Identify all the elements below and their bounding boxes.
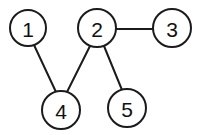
nodes-layer: 12345: [10, 9, 191, 129]
graph-node-1[interactable]: 1: [10, 10, 46, 46]
graph-node-label-5: 5: [121, 98, 133, 121]
graph-diagram: 12345: [0, 0, 200, 135]
graph-node-label-1: 1: [22, 18, 34, 41]
graph-node-3[interactable]: 3: [153, 9, 191, 47]
graph-node-label-4: 4: [55, 100, 67, 123]
graph-node-label-3: 3: [166, 18, 178, 41]
graph-node-label-2: 2: [91, 18, 103, 41]
graph-node-4[interactable]: 4: [42, 91, 80, 129]
graph-edge-1-4: [34, 45, 56, 92]
graph-edge-2-4: [67, 46, 90, 92]
graph-edge-2-5: [104, 46, 122, 90]
graph-node-5[interactable]: 5: [108, 89, 146, 127]
graph-canvas: 12345: [0, 0, 200, 135]
graph-node-2[interactable]: 2: [78, 9, 116, 47]
